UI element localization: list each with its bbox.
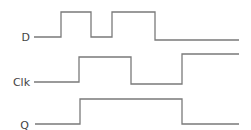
signal-label-q: Q <box>20 119 29 130</box>
timing-diagram: D Clk Q <box>0 0 251 130</box>
signal-label-d: D <box>22 31 30 44</box>
waveform-q <box>35 99 239 124</box>
signal-clk: Clk <box>13 54 239 89</box>
waveform-clk <box>34 54 239 84</box>
waveform-d <box>34 12 239 40</box>
signal-d: D <box>22 12 239 44</box>
signal-q: Q <box>20 99 239 130</box>
signal-label-clk: Clk <box>13 76 31 89</box>
